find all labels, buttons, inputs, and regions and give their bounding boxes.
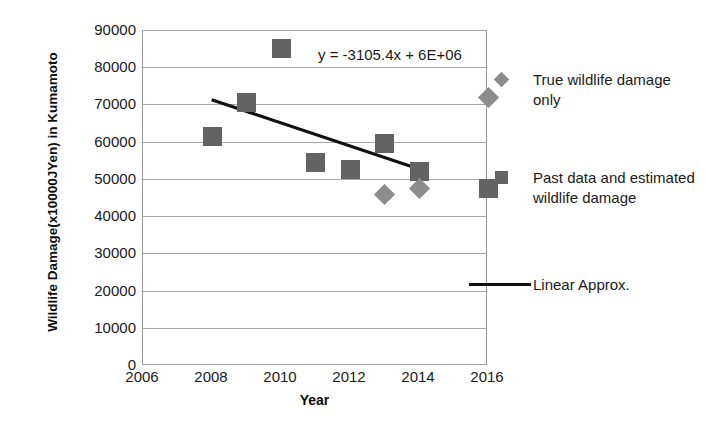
y-axis-tick-label: 40000 xyxy=(56,207,136,224)
x-axis-tick-labels: 200620082010201220142016 xyxy=(142,368,487,392)
x-axis-tick-label: 2010 xyxy=(245,368,315,385)
data-point-past-estimated xyxy=(203,127,222,146)
x-axis-tick-label: 2006 xyxy=(107,368,177,385)
legend: True wildlife damage only Past data and … xyxy=(487,70,702,300)
x-axis-tick-label: 2012 xyxy=(314,368,384,385)
line-marker-icon xyxy=(487,275,533,293)
y-axis-tick-label: 90000 xyxy=(56,21,136,38)
data-point-past-estimated xyxy=(237,93,256,112)
chart-root: Wildlife Damage(x10000JYen) in Kumamoto … xyxy=(0,0,706,424)
x-axis-tick-label: 2014 xyxy=(383,368,453,385)
y-axis-tick-label: 60000 xyxy=(56,133,136,150)
y-axis-tick-label: 80000 xyxy=(56,58,136,75)
legend-item-true-wildlife-damage[interactable]: True wildlife damage only xyxy=(487,70,693,109)
x-axis-title: Year xyxy=(142,392,487,408)
x-axis-tick-label: 2008 xyxy=(176,368,246,385)
legend-item-linear-approx[interactable]: Linear Approx. xyxy=(487,275,693,295)
x-axis-tick-label: 2016 xyxy=(452,368,522,385)
legend-item-past-and-estimated[interactable]: Past data and estimated wildlife damage xyxy=(487,168,701,207)
legend-label-linear-approx: Linear Approx. xyxy=(533,275,693,295)
diamond-marker-icon xyxy=(487,70,533,88)
y-axis-tick-labels: 0100002000030000400005000060000700008000… xyxy=(52,30,136,365)
linear-approximation-line xyxy=(143,30,486,364)
data-point-past-estimated xyxy=(341,160,360,179)
square-marker-icon xyxy=(487,168,533,186)
legend-label-past-and-estimated: Past data and estimated wildlife damage xyxy=(533,168,701,207)
y-axis-tick-label: 10000 xyxy=(56,319,136,336)
data-point-past-estimated xyxy=(306,153,325,172)
data-point-past-estimated xyxy=(375,134,394,153)
y-axis-tick-label: 50000 xyxy=(56,170,136,187)
plot-area xyxy=(142,30,487,365)
y-axis-tick-label: 20000 xyxy=(56,282,136,299)
legend-label-true-wildlife-damage: True wildlife damage only xyxy=(533,70,693,109)
y-axis-tick-label: 30000 xyxy=(56,244,136,261)
y-axis-tick-label: 70000 xyxy=(56,95,136,112)
data-point-past-estimated xyxy=(272,39,291,58)
regression-equation-label: y = -3105.4x + 6E+06 xyxy=(318,46,462,63)
y-axis-title-area: Wildlife Damage(x10000JYen) in Kumamoto xyxy=(0,0,56,380)
